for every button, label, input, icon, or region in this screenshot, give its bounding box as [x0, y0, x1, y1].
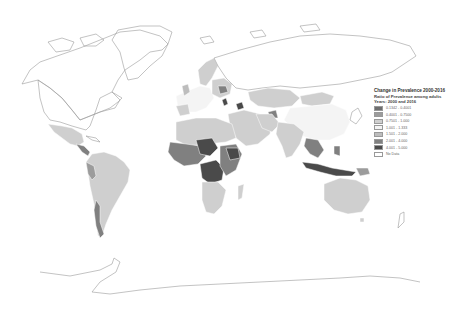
region-antarctica [40, 258, 420, 294]
legend-label: 4.001 - 5.000 [386, 146, 407, 150]
region-new-zealand [398, 212, 404, 228]
region-caucasus [236, 102, 244, 110]
legend-item: 0.7501 - 1.000 [374, 118, 466, 125]
legend-swatch [374, 132, 383, 137]
legend-item: 1.501 - 2.000 [374, 131, 466, 138]
region-tasmania [360, 218, 364, 222]
region-greenland [112, 26, 172, 80]
legend-label: 1.001 - 1.333 [386, 126, 407, 130]
region-png [356, 168, 370, 176]
legend-swatch [374, 145, 383, 150]
region-mongolia [300, 92, 334, 106]
region-ukraine [222, 98, 228, 106]
legend-item: 0.1342 - 0.4001 [374, 105, 466, 112]
region-arctic-russia-islands [250, 24, 320, 38]
legend-label: 2.001 - 4.000 [386, 139, 407, 143]
region-canada-arctic [22, 30, 168, 120]
region-kazakhstan [248, 88, 300, 108]
region-iceland [200, 36, 214, 44]
region-iberia [176, 104, 190, 116]
legend-label: 1.501 - 2.000 [386, 132, 407, 136]
region-mexico [48, 124, 84, 146]
legend-label: 0.7501 - 1.000 [386, 119, 409, 123]
region-philippines [334, 146, 340, 156]
legend-label: 0.1342 - 0.4001 [386, 106, 411, 110]
region-south-america [86, 152, 130, 236]
legend-item: 0.4001 - 0.7500 [374, 111, 466, 118]
legend-items: 0.1342 - 0.4001 0.4001 - 0.7500 0.7501 -… [374, 105, 466, 158]
legend-item: No Data [374, 151, 466, 158]
legend-swatch [374, 125, 383, 130]
region-southeast-asia [304, 138, 324, 158]
map-legend: Change in Prevalence 2000-2016 Ratio of … [374, 88, 466, 158]
legend-swatch [374, 106, 383, 111]
region-central-america [76, 144, 90, 156]
region-madagascar [238, 184, 244, 200]
legend-swatch [374, 112, 383, 117]
region-indonesia [302, 162, 356, 176]
region-russia [214, 34, 416, 90]
legend-swatch [374, 119, 383, 124]
legend-label: 0.4001 - 0.7500 [386, 113, 411, 117]
region-korea-japan [350, 108, 362, 124]
region-southern-africa [202, 182, 226, 214]
legend-item: 1.001 - 1.333 [374, 125, 466, 132]
legend-label: No Data [386, 152, 399, 156]
legend-item: 2.001 - 4.000 [374, 138, 466, 145]
region-australia [324, 178, 370, 214]
legend-swatch [374, 139, 383, 144]
legend-swatch [374, 152, 383, 157]
region-usa [38, 80, 122, 130]
region-caribbean [86, 136, 100, 142]
legend-item: 4.001 - 5.000 [374, 144, 466, 151]
